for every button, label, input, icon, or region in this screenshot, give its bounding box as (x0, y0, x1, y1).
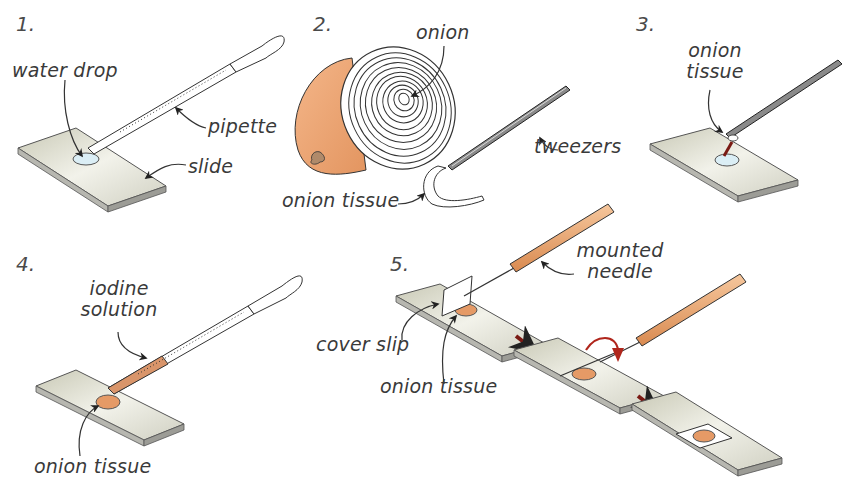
label-onion-tissue-2: onion tissue (282, 190, 399, 211)
pipette-pointer (176, 108, 206, 128)
label-pipette: pipette (208, 116, 277, 137)
label-onion-tissue-4: onion tissue (34, 456, 151, 477)
onion-illustration (295, 28, 475, 188)
label-onion-tissue-5: onion tissue (380, 376, 497, 397)
step-number-3: 3. (636, 12, 655, 36)
step-number-2: 2. (313, 12, 332, 36)
label-tweezers: tweezers (534, 136, 621, 157)
step-number-1: 1. (16, 12, 35, 36)
label-onion-tissue-3-line2: tissue (680, 61, 750, 82)
label-onion: onion (416, 22, 470, 43)
step2-onion-tissue (424, 166, 484, 207)
step2-tweezers (448, 86, 570, 170)
mounted-needle-b-handle (636, 274, 746, 346)
label-iodine-line1: iodine (74, 278, 164, 299)
step4-onion-tissue (96, 395, 120, 409)
slide-pointer (146, 164, 186, 178)
label-needle-line1: mounted (570, 240, 670, 261)
label-iodine-solution: iodine solution (74, 278, 164, 320)
label-iodine-line2: solution (74, 299, 164, 320)
tissue2-pointer (398, 194, 424, 204)
iodine-pointer (118, 332, 146, 358)
label-needle-line2: needle (570, 261, 670, 282)
label-water-drop: water drop (12, 60, 118, 81)
label-onion-tissue-3-line1: onion (680, 40, 750, 61)
step1-slide (18, 128, 166, 212)
label-mounted-needle: mounted needle (570, 240, 670, 282)
step3-water-drop (715, 154, 739, 166)
label-slide: slide (188, 156, 233, 177)
step-number-5: 5. (390, 252, 409, 276)
step-number-4: 4. (16, 252, 35, 276)
label-cover-slip: cover slip (316, 334, 409, 355)
water-drop (73, 153, 99, 165)
diagram-canvas: 1. 2. 3. 4. 5. water drop pipette slide … (0, 0, 859, 501)
step5c-onion-tissue (693, 430, 715, 442)
tissue3-pointer (709, 90, 723, 132)
label-onion-tissue-3: onion tissue (680, 40, 750, 82)
